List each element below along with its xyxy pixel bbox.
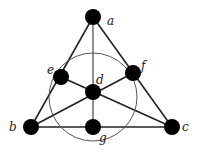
label-e: e: [47, 63, 54, 77]
label-a: a: [107, 14, 114, 28]
node-e: [53, 69, 69, 85]
label-f: f: [140, 59, 148, 73]
node-c: [164, 119, 180, 135]
fano-plane-diagram: abcdefg: [0, 0, 197, 152]
node-b: [23, 119, 39, 135]
node-a: [85, 9, 101, 25]
label-c: c: [182, 120, 189, 134]
label-d: d: [96, 73, 104, 87]
node-f: [125, 65, 141, 81]
label-b: b: [9, 120, 17, 134]
label-g: g: [99, 131, 107, 145]
